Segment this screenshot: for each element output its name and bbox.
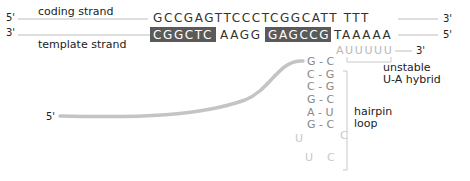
rna-5prime-label: 5'	[46, 111, 55, 122]
hairpin-pair-3: C - G	[307, 80, 334, 93]
template-mid-sequence: AAGG	[220, 28, 262, 42]
template-box1-sequence: CGGCTC	[153, 28, 213, 42]
hairpin-pair-6: G - C	[307, 118, 334, 131]
hairpin-bracket	[343, 71, 347, 170]
hairpin-annotation-line2: loop	[354, 117, 378, 130]
coding-strand-label: coding strand	[38, 5, 114, 18]
loop-base-right-2: C	[327, 151, 335, 164]
rna-strand-curve	[60, 61, 303, 117]
hybrid-annotation-line2: U-A hybrid	[383, 73, 441, 86]
rna-3prime-label: 3'	[416, 45, 425, 56]
template-strand-label: template strand	[38, 38, 126, 51]
loop-base-left-1: U	[295, 132, 303, 145]
template-box2-sequence: GAGCCG	[268, 28, 330, 42]
rna-tail-sequence: AUUUUU	[336, 44, 393, 57]
loop-base-left-2: U	[305, 151, 313, 164]
template-5prime-label: 5'	[443, 29, 452, 40]
template-tail-sequence: TAAAAA	[333, 28, 392, 42]
coding-3prime-label: 3'	[443, 13, 452, 24]
coding-5prime-label: 5'	[6, 12, 15, 23]
coding-sequence: GCCGAGTTCCCTCGGCATT TTT	[153, 11, 370, 25]
hairpin-pair-1: G - C	[307, 55, 334, 68]
template-3prime-label: 3'	[6, 27, 15, 38]
transcription-termination-diagram: 5' coding strand GCCGAGTTCCCTCGGCATT TTT…	[0, 0, 470, 181]
hairpin-pair-4: G - C	[307, 93, 334, 106]
